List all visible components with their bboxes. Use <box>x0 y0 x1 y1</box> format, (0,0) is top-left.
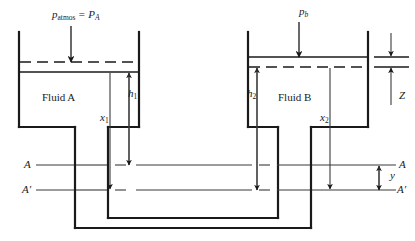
label-fluid-a: Fluid A <box>42 92 75 103</box>
label-fluid-b: Fluid B <box>278 92 311 103</box>
label-x1: x1 <box>100 112 109 125</box>
label-z: Z <box>399 90 405 101</box>
label-y: y <box>390 170 395 181</box>
label-datum-a-prime-right: A′ <box>397 184 406 195</box>
label-h1: h1 <box>128 88 137 101</box>
diagram-canvas <box>0 0 415 241</box>
label-datum-a-left: A <box>24 159 31 170</box>
manometer-figure: patmos = PA pb Fluid A Fluid B h1 h2 x1 … <box>0 0 415 241</box>
label-h2: h2 <box>247 88 256 101</box>
left-tank-walls <box>19 32 139 127</box>
label-p-atmos: patmos = PA <box>52 9 100 22</box>
label-datum-a-right: A <box>399 159 406 170</box>
label-x2: x2 <box>320 112 329 125</box>
right-tank-walls <box>248 32 368 127</box>
label-p-b: pb <box>299 6 308 19</box>
label-datum-a-prime-left: A′ <box>22 184 31 195</box>
